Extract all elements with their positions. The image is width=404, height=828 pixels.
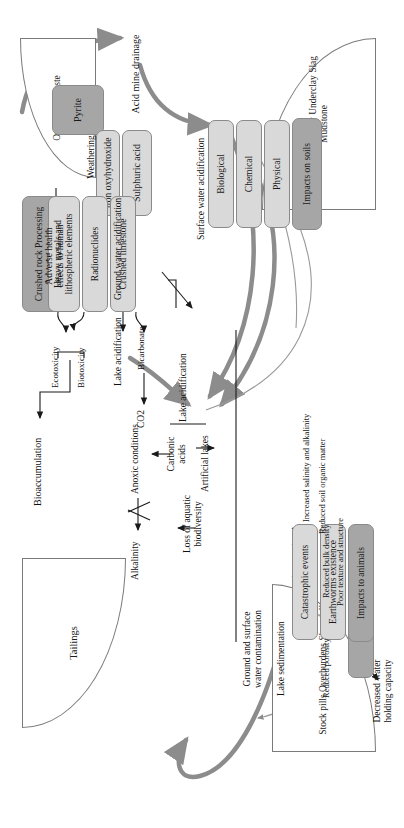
label-weathering: Weathering	[86, 126, 97, 188]
node-biological-label: Biological	[216, 154, 227, 194]
label-loss-of-aquatic-biodiversity: Loss of aquatic biodiversity	[182, 486, 203, 562]
node-catastrophic-events-label: Catastrophic events	[300, 545, 311, 620]
node-chemical[interactable]: Chemical	[236, 120, 262, 228]
label-acid-mine-drainage: Acid mine drainage	[130, 20, 141, 128]
node-radionuclides[interactable]: Radionuclides	[82, 196, 108, 312]
label-ground-surface-contamination: Ground and surface water contamination	[242, 590, 263, 708]
node-sulphuric-acid-label: Sulphuric acid	[131, 144, 142, 202]
diagram-canvas: Oxidizable waste Sand stone Fireclay Und…	[0, 0, 404, 828]
node-impacts-to-animals[interactable]: Impacts to animals	[348, 524, 374, 642]
node-impacts-on-soils-label: Impacts on soils	[302, 143, 313, 205]
label-decreased-water-holding: Decreased water holding capacity	[372, 646, 393, 736]
node-biological[interactable]: Biological	[208, 120, 234, 228]
node-radionuclides-label: Radionuclides	[90, 227, 101, 281]
node-impacts-to-animals-label: Impacts to animals	[356, 547, 367, 619]
node-physical-label: Physical	[272, 158, 283, 190]
node-pyrite-label: Pyrite	[72, 98, 83, 122]
source-tailings-label: Tailings	[68, 626, 81, 660]
label-adverse-health: Adverse health effects to human	[44, 224, 65, 288]
label-carbonic-acids: Carbonic acids	[166, 428, 187, 480]
node-chemical-label: Chemical	[244, 156, 255, 192]
node-physical[interactable]: Physical	[264, 120, 290, 228]
node-catastrophic-events[interactable]: Catastrophic events	[292, 524, 318, 640]
node-impacts-on-soils[interactable]: Impacts on soils	[292, 118, 322, 230]
